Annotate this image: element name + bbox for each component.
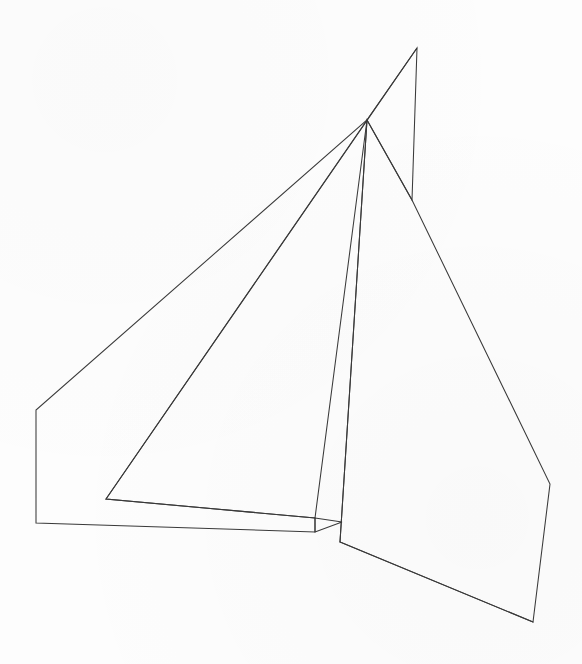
drawing-canvas [0, 0, 582, 664]
sail-plan-line-art [0, 0, 582, 664]
canvas-background [0, 0, 582, 664]
